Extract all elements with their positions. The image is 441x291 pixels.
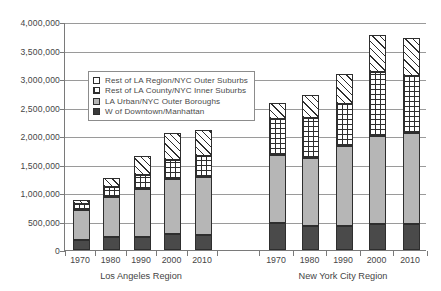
bar-stack (195, 130, 212, 250)
bar-segment (302, 158, 319, 226)
bar-segment (336, 104, 353, 146)
bar-segment (103, 178, 120, 187)
x-axis-tick-label: 2000 (367, 255, 387, 265)
group-label-los-angeles-region: Los Angeles Region (100, 271, 182, 281)
bar-segment (195, 235, 212, 250)
bar-segment (403, 133, 420, 223)
y-axis-tick-label: 3,000,000 (2, 75, 60, 85)
bar-segment (302, 118, 319, 157)
y-axis-tick-label: 2,500,000 (2, 104, 60, 114)
bar-segment (73, 210, 90, 240)
x-axis-tick-label: 1980 (101, 255, 121, 265)
bar-segment (134, 237, 151, 250)
bar-segment (164, 179, 181, 234)
bar-stack (269, 103, 286, 250)
legend-label: Rest of LA County/NYC Inner Suburbs (105, 86, 246, 95)
group-label-new-york-city-region: New York City Region (299, 271, 388, 281)
legend-label: LA Urban/NYC Outer Boroughs (105, 97, 220, 106)
x-axis-tick-label: 2010 (192, 255, 212, 265)
legend-item: Rest of LA County/NYC Inner Suburbs (93, 86, 248, 97)
y-axis-tick-label: 3,500,000 (2, 47, 60, 57)
bar-segment (369, 136, 386, 224)
bar-segment (336, 226, 353, 251)
x-axis-tick-label: 1970 (266, 255, 286, 265)
legend-swatch-icon (93, 108, 100, 115)
bar-segment (73, 200, 90, 203)
bar-segment (164, 160, 181, 179)
bar-segment (403, 76, 420, 134)
bar-stack (103, 178, 120, 250)
bar-stack (369, 35, 386, 250)
bar-segment (269, 103, 286, 119)
legend-item: W of Downtown/Manhattan (93, 107, 248, 118)
bar-stack (134, 156, 151, 250)
y-axis-tick-label: 1,000,000 (2, 189, 60, 199)
y-axis-tick-label: 1,500,000 (2, 161, 60, 171)
legend-swatch-icon (93, 98, 100, 105)
x-axis-tick-label: 2010 (400, 255, 420, 265)
bar-segment (369, 224, 386, 250)
y-axis-labels: 0500,0001,000,0001,500,0002,000,0002,500… (0, 23, 60, 251)
bar-segment (164, 133, 181, 161)
bar-segment (269, 119, 286, 155)
legend-label: W of Downtown/Manhattan (105, 107, 204, 116)
bar-segment (134, 156, 151, 175)
bar-series-container (65, 23, 426, 250)
bar-segment (269, 155, 286, 222)
x-axis-tick-label: 1970 (70, 255, 90, 265)
bar-segment (73, 204, 90, 210)
bar-segment (134, 189, 151, 237)
x-axis-tick-label: 2000 (162, 255, 182, 265)
x-axis-tick-label: 1980 (300, 255, 320, 265)
bar-segment (195, 156, 212, 177)
x-axis-group-labels: Los Angeles RegionNew York City Region (0, 271, 441, 287)
bar-segment (103, 237, 120, 250)
bar-stack (336, 74, 353, 250)
bar-segment (164, 234, 181, 250)
x-axis-tick-label: 1990 (131, 255, 151, 265)
bar-stack (403, 38, 420, 250)
bar-segment (403, 224, 420, 251)
bar-segment (73, 240, 90, 250)
bar-segment (403, 38, 420, 76)
legend-label: Rest of LA Region/NYC Outer Suburbs (105, 76, 248, 85)
bar-segment (134, 175, 151, 188)
stacked-bar-chart: 0500,0001,000,0001,500,0002,000,0002,500… (0, 0, 441, 291)
legend-swatch-icon (93, 77, 100, 84)
legend-item: Rest of LA Region/NYC Outer Suburbs (93, 75, 248, 86)
bar-segment (103, 197, 120, 237)
y-axis-tick-label: 2,000,000 (2, 132, 60, 142)
y-axis-tick-label: 4,000,000 (2, 18, 60, 28)
plot-area (64, 23, 426, 251)
bar-segment (195, 130, 212, 156)
bar-segment (369, 72, 386, 136)
bar-stack (302, 95, 319, 250)
bar-segment (302, 95, 319, 118)
bar-stack (164, 133, 181, 250)
y-axis-tick-label: 500,000 (2, 218, 60, 228)
legend-item: LA Urban/NYC Outer Boroughs (93, 96, 248, 107)
x-axis-tick-label: 1990 (333, 255, 353, 265)
bar-segment (302, 226, 319, 250)
bar-segment (369, 35, 386, 72)
bar-segment (336, 146, 353, 226)
bar-segment (269, 223, 286, 250)
bar-segment (103, 187, 120, 197)
legend-swatch-icon (93, 87, 100, 94)
chart-legend: Rest of LA Region/NYC Outer SuburbsRest … (88, 71, 255, 121)
bar-segment (336, 74, 353, 103)
x-axis-labels: 1970198019902000201019701980199020002010 (0, 255, 441, 271)
bar-stack (73, 200, 90, 250)
bar-segment (195, 177, 212, 235)
